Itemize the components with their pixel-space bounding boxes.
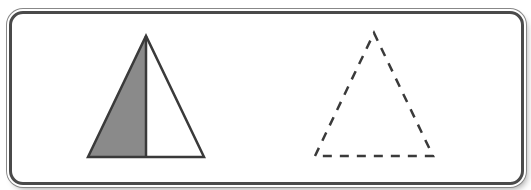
- split-triangle: [88, 36, 204, 157]
- dashed-triangle: [315, 33, 433, 156]
- dashed-outline: [315, 33, 433, 156]
- figure-canvas: [0, 0, 531, 190]
